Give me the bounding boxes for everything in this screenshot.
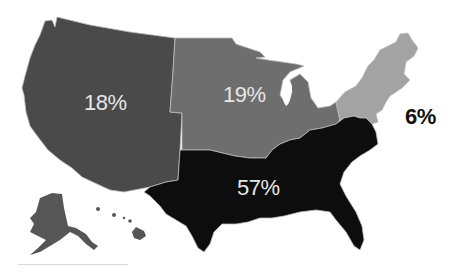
inset-alaska [30,193,98,255]
inset-hawaii [96,207,146,240]
label-northeast: 6% [405,106,436,128]
us-region-map [0,0,459,272]
label-midwest: 19% [223,84,266,106]
footer-divider [18,264,128,265]
label-south: 57% [237,177,280,199]
label-west: 18% [84,92,127,114]
